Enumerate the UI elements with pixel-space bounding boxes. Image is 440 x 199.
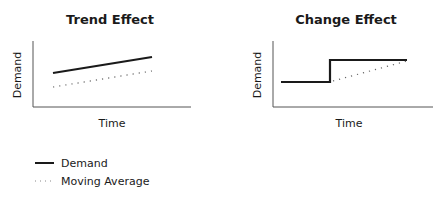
- x-axis-label: Time: [335, 117, 363, 130]
- y-axis-label: Demand: [251, 52, 264, 99]
- y-axis-label: Demand: [11, 52, 24, 99]
- legend-label-demand: Demand: [61, 157, 108, 170]
- chart-title: Trend Effect: [66, 12, 154, 27]
- moving-average-line: [333, 61, 407, 81]
- change-effect-chart: Change Effect Time Demand: [251, 12, 433, 130]
- x-axis-label: Time: [98, 117, 126, 130]
- legend-label-moving-average: Moving Average: [61, 175, 150, 188]
- trend-effect-chart: Trend Effect Time Demand: [11, 12, 191, 130]
- demand-line: [281, 60, 407, 82]
- chart-title: Change Effect: [295, 12, 397, 27]
- demand-line: [53, 57, 152, 73]
- diagram-canvas: Trend Effect Time Demand Change Effect T…: [0, 0, 440, 199]
- legend: Demand Moving Average: [35, 157, 150, 188]
- moving-average-line: [53, 71, 152, 87]
